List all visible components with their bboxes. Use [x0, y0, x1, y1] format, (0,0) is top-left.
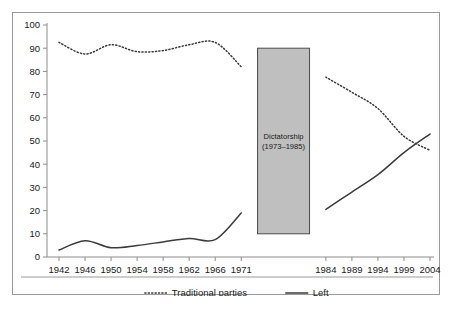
- series-line-left-seg1: [59, 213, 241, 250]
- y-axis-tick-label: 0: [35, 251, 40, 262]
- x-axis-tick-label: 1946: [74, 264, 95, 275]
- x-axis-tick-label: 1994: [367, 264, 388, 275]
- y-axis-tick-label: 70: [29, 89, 40, 100]
- x-axis-tick-label: 1942: [48, 264, 69, 275]
- dictatorship-band: Dictatorship(1973–1985): [258, 48, 310, 234]
- y-axis-tick-label: 30: [29, 182, 40, 193]
- dictatorship-band-label-line2: (1973–1985): [262, 142, 306, 151]
- series-line-traditional-parties-seg1: [59, 41, 241, 67]
- x-axis-tick-label: 2004: [419, 264, 440, 275]
- x-axis-tick-label: 1966: [205, 264, 226, 275]
- series-line-left-seg2: [326, 134, 430, 209]
- y-axis-tick-label: 50: [29, 135, 40, 146]
- x-axis-tick-label: 1971: [231, 264, 252, 275]
- x-axis-tick-label: 1954: [127, 264, 148, 275]
- dictatorship-band-label-line1: Dictatorship: [264, 132, 304, 141]
- chart-legend: Traditional partiesLeft: [21, 277, 433, 296]
- y-axis-tick-label: 40: [29, 159, 40, 170]
- y-axis-tick-label: 100: [24, 19, 40, 30]
- series-line-traditional-parties-seg2: [326, 77, 430, 150]
- chart-frame: 0102030405060708090100 19421946195019541…: [12, 12, 440, 295]
- x-axis: 1942194619501954195819621966197119841989…: [47, 257, 441, 275]
- data-series: [59, 41, 430, 250]
- dictatorship-band-rect: [258, 48, 310, 234]
- y-axis-tick-label: 10: [29, 228, 40, 239]
- x-axis-tick-label: 1999: [393, 264, 414, 275]
- x-axis-tick-label: 1950: [100, 264, 121, 275]
- y-axis: 0102030405060708090100: [24, 19, 47, 262]
- x-axis-tick-label: 1984: [315, 264, 336, 275]
- legend-label-traditional-parties: Traditional parties: [172, 287, 247, 296]
- y-axis-tick-label: 20: [29, 205, 40, 216]
- x-axis-tick-label: 1989: [341, 264, 362, 275]
- chart-figure: 0102030405060708090100 19421946195019541…: [0, 0, 453, 310]
- x-axis-tick-label: 1958: [153, 264, 174, 275]
- x-axis-tick-label: 1962: [179, 264, 200, 275]
- y-axis-tick-label: 90: [29, 43, 40, 54]
- y-axis-tick-label: 80: [29, 66, 40, 77]
- y-axis-tick-label: 60: [29, 112, 40, 123]
- legend-label-left: Left: [313, 287, 329, 296]
- line-chart-plot: 0102030405060708090100 19421946195019541…: [13, 13, 441, 296]
